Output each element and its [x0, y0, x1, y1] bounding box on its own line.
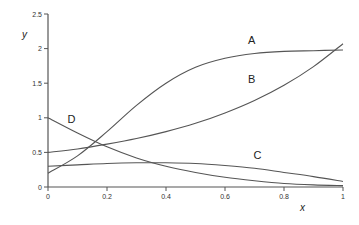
- x-tick-label: 0.8: [279, 193, 289, 200]
- x-tick-label: 0.6: [220, 193, 230, 200]
- curve-b: [48, 44, 343, 153]
- y-tick-label: 1: [38, 114, 42, 121]
- curve-label-b: B: [248, 73, 255, 85]
- curve-label-d: D: [68, 113, 76, 125]
- curves: [48, 44, 343, 186]
- x-tick-label: 0.2: [102, 193, 112, 200]
- y-tick-label: 2: [38, 45, 42, 52]
- curve-label-c: C: [253, 149, 261, 161]
- x-tick-label: 0.4: [161, 193, 171, 200]
- line-chart: 00.20.40.60.8100.511.522.5 ABCD y x: [0, 0, 359, 225]
- y-tick-label: 0: [38, 184, 42, 191]
- curve-label-a: A: [248, 34, 256, 46]
- y-tick-label: 2.5: [32, 11, 42, 18]
- y-tick-label: 1.5: [32, 80, 42, 87]
- curve-d: [48, 118, 343, 186]
- x-axis-label: x: [299, 202, 306, 213]
- x-tick-label: 0: [46, 193, 50, 200]
- curve-a: [48, 50, 343, 173]
- x-tick-label: 1: [341, 193, 345, 200]
- y-axis-label: y: [21, 29, 28, 40]
- y-tick-label: 0.5: [32, 149, 42, 156]
